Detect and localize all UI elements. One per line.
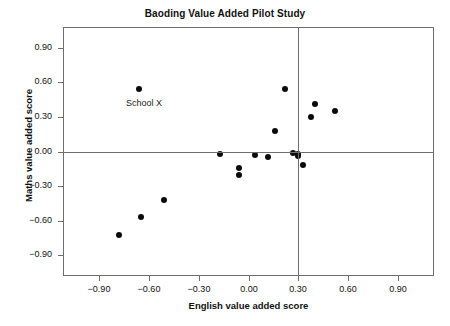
x-tick-label: 0.60 xyxy=(326,284,370,294)
data-point xyxy=(332,108,338,114)
x-tick-mark xyxy=(99,276,100,281)
data-point xyxy=(312,101,318,107)
y-tick-label: −0.90 xyxy=(18,249,52,259)
x-tick-mark xyxy=(199,276,200,281)
footer-caption xyxy=(8,314,248,321)
y-tick-mark xyxy=(58,82,63,83)
y-axis-label: Maths value added score xyxy=(23,56,34,236)
x-tick-mark xyxy=(249,276,250,281)
x-tick-mark xyxy=(149,276,150,281)
x-tick-label: 0.90 xyxy=(376,284,420,294)
data-point xyxy=(116,232,122,238)
x-tick-label: −0.30 xyxy=(177,284,221,294)
point-annotation-school-x: School X xyxy=(126,98,162,108)
reference-line-horizontal xyxy=(63,152,434,153)
x-tick-label: −0.90 xyxy=(77,284,121,294)
x-tick-label: 0.00 xyxy=(227,284,271,294)
y-tick-mark xyxy=(58,48,63,49)
y-tick-mark xyxy=(58,255,63,256)
y-tick-mark xyxy=(58,186,63,187)
x-axis-label: English value added score xyxy=(63,300,434,311)
y-tick-mark xyxy=(58,152,63,153)
reference-line-vertical xyxy=(298,27,299,276)
y-tick-mark xyxy=(58,221,63,222)
x-tick-mark xyxy=(398,276,399,281)
x-tick-label: −0.60 xyxy=(127,284,171,294)
data-point xyxy=(161,197,167,203)
page-title: Baoding Value Added Pilot Study xyxy=(0,8,450,19)
data-point xyxy=(236,172,242,178)
x-tick-label: 0.30 xyxy=(276,284,320,294)
data-point xyxy=(236,165,242,171)
y-tick-mark xyxy=(58,117,63,118)
x-tick-mark xyxy=(348,276,349,281)
data-point xyxy=(272,128,278,134)
x-tick-mark xyxy=(298,276,299,281)
y-tick-label: 0.90 xyxy=(18,42,52,52)
scatter-plot-figure: Baoding Value Added Pilot Study School X… xyxy=(0,0,450,326)
